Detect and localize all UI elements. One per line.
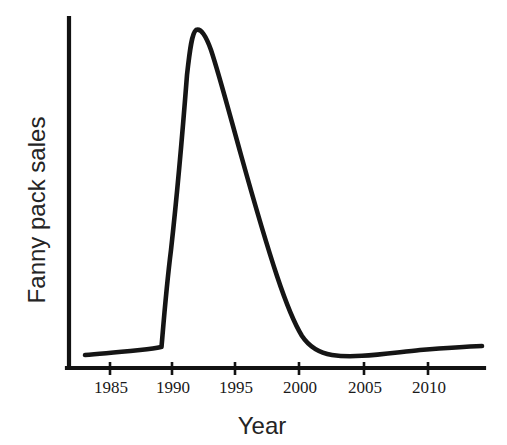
x-tick-label-1: 1990	[156, 378, 190, 397]
x-tick-label-4: 2005	[348, 378, 382, 397]
x-tick-label-5: 2010	[412, 378, 446, 397]
x-tick-label-2: 1995	[219, 378, 253, 397]
x-axis-title: Year	[238, 412, 287, 439]
x-tick-label-3: 2000	[283, 378, 317, 397]
fanny-pack-sales-line-chart: 1985 1990 1995 2000 2005 2010 Year Fanny…	[0, 0, 507, 445]
y-axis-title: Fanny pack sales	[23, 117, 50, 304]
x-tick-label-0: 1985	[94, 378, 128, 397]
chart-figure: 1985 1990 1995 2000 2005 2010 Year Fanny…	[0, 0, 507, 445]
